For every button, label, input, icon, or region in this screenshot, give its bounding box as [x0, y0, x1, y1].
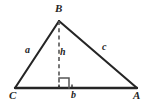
side-label-a: a — [25, 45, 30, 55]
vertex-label-c: C — [9, 90, 16, 101]
vertex-label-b: B — [55, 3, 62, 14]
geometry-figure: B C A a c b h — [0, 0, 147, 104]
side-label-b: b — [71, 90, 76, 100]
triangle-side-c — [59, 21, 137, 88]
right-angle-marker-icon — [59, 78, 69, 88]
triangle-side-a — [15, 21, 59, 88]
side-label-c: c — [102, 42, 106, 52]
altitude-label-h: h — [60, 47, 66, 57]
vertex-label-a: A — [133, 90, 140, 101]
